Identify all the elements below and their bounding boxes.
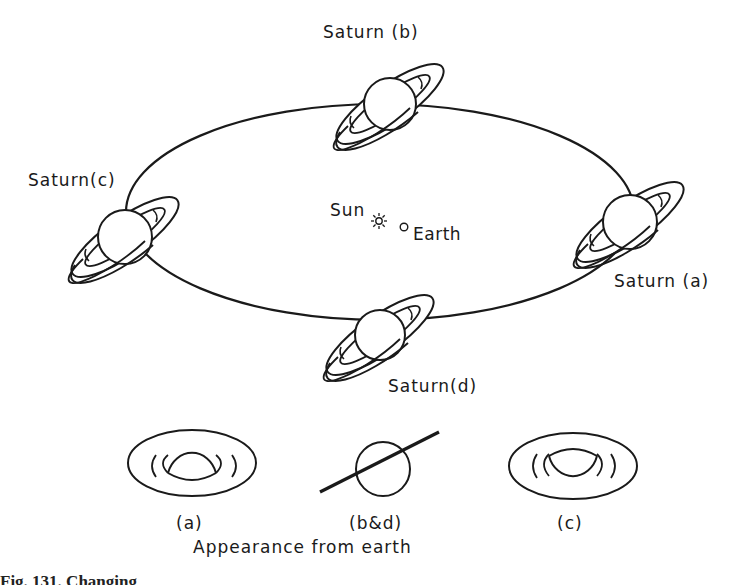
saturn-a-icon bbox=[567, 170, 694, 275]
label-saturn-b: Saturn (b) bbox=[323, 22, 419, 42]
label-saturn-c: Saturn(c) bbox=[28, 170, 116, 190]
label-appearance-a: (a) bbox=[176, 513, 203, 533]
label-appearance-c: (c) bbox=[557, 513, 583, 533]
saturn-d-icon bbox=[317, 283, 444, 388]
label-earth: Earth bbox=[413, 224, 461, 244]
label-saturn-a: Saturn (a) bbox=[614, 271, 709, 291]
earth-icon bbox=[400, 223, 408, 231]
diagram-canvas bbox=[0, 0, 753, 585]
label-saturn-d: Saturn(d) bbox=[388, 376, 477, 396]
appearance-title: Appearance from earth bbox=[193, 537, 412, 557]
figure-caption: Fig. 131. Changing bbox=[0, 572, 137, 585]
orbit-ellipse bbox=[126, 104, 634, 320]
appearance-a-icon bbox=[128, 430, 256, 496]
appearance-bd-icon bbox=[320, 432, 439, 496]
label-sun: Sun bbox=[330, 200, 365, 220]
sun-icon bbox=[371, 213, 387, 229]
label-appearance-bd: (b&d) bbox=[349, 513, 402, 533]
appearance-c-icon bbox=[509, 433, 637, 499]
